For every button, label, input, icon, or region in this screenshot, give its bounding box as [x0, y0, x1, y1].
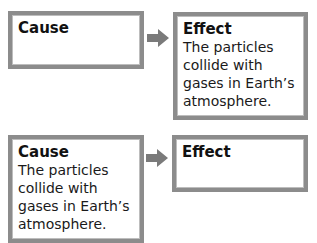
cause-box-2: Cause The particles collide with gases i…: [8, 135, 144, 243]
cause-text-2: The particles collide with gases in Eart…: [18, 161, 134, 233]
cause-box-1: Cause: [8, 11, 144, 69]
arrow-right-icon: [146, 149, 168, 167]
effect-title-1: Effect: [183, 20, 298, 38]
cause-title-2: Cause: [18, 143, 134, 161]
effect-box-1: Effect The particles collide with gases …: [173, 12, 308, 120]
cause-title-1: Cause: [18, 19, 134, 37]
effect-text-1: The particles collide with gases in Eart…: [183, 38, 298, 110]
arrow-right-icon: [147, 29, 169, 47]
effect-box-2: Effect: [172, 135, 308, 192]
effect-title-2: Effect: [182, 143, 298, 161]
